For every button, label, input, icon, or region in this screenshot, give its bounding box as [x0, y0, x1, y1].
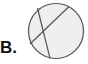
circle-diagram	[0, 0, 88, 64]
circle	[29, 4, 84, 59]
